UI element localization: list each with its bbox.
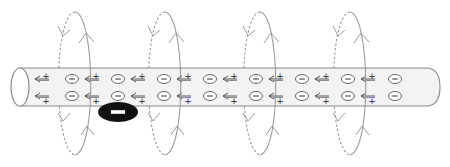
positive-charge: + bbox=[138, 96, 146, 106]
positive-charge: + bbox=[322, 71, 330, 81]
arrow-down-icon bbox=[148, 113, 160, 121]
free-electron bbox=[98, 102, 138, 122]
positive-charge: + bbox=[322, 96, 330, 106]
positive-charge: + bbox=[42, 71, 50, 81]
wire-cross-section bbox=[11, 68, 29, 106]
positive-charge: + bbox=[368, 96, 376, 106]
positive-charge: + bbox=[184, 96, 192, 106]
conductor-diagram: ++++++++++++++++ bbox=[0, 0, 450, 167]
positive-charge: + bbox=[230, 96, 238, 106]
positive-charge: + bbox=[276, 71, 284, 81]
positive-charge: + bbox=[368, 71, 376, 81]
positive-charge: + bbox=[230, 71, 238, 81]
arrow-down-icon bbox=[333, 113, 345, 121]
arrow-down-icon bbox=[58, 113, 70, 121]
arrow-down-icon bbox=[243, 113, 255, 121]
positive-charge: + bbox=[184, 71, 192, 81]
positive-charge: + bbox=[276, 96, 284, 106]
positive-charge: + bbox=[92, 96, 100, 106]
positive-charge: + bbox=[92, 71, 100, 81]
free-electron-minus-sign bbox=[111, 110, 125, 114]
positive-charge: + bbox=[138, 71, 146, 81]
positive-charge: + bbox=[42, 96, 50, 106]
